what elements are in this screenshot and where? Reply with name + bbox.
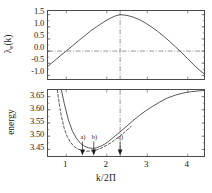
lambda-subscript: e xyxy=(7,46,15,49)
y-tick-label: 3.55 xyxy=(30,117,44,126)
y-tick-label: 0.5 xyxy=(34,31,44,40)
annotation-label-a: a) xyxy=(80,133,85,140)
top-panel-plot-area xyxy=(48,11,204,79)
x-tick-label: 2 xyxy=(96,159,116,169)
annotation-label-b: b) xyxy=(92,133,97,140)
x-axis-label: k/2Π xyxy=(0,173,212,183)
lambda-argument: (k) xyxy=(3,34,13,45)
figure-container: λe(k) 1.5 1.0 0.5 0.0 -0.5 -1.0 energy 3… xyxy=(0,0,212,193)
annotation-label-c: c) xyxy=(118,133,123,140)
y-tick-label: 0.0 xyxy=(34,43,44,52)
y-tick-label: -1.0 xyxy=(31,67,44,76)
y-tick-label: 1.0 xyxy=(34,19,44,28)
y-tick-label: 3.50 xyxy=(30,130,44,139)
bottom-panel-plot-area xyxy=(48,90,204,156)
y-tick-label: -0.5 xyxy=(31,55,44,64)
x-tick-label: 3 xyxy=(136,159,156,169)
y-tick-label: 3.65 xyxy=(30,91,44,100)
top-plot-panel xyxy=(47,10,205,80)
y-tick-label: 1.5 xyxy=(34,7,44,16)
y-tick-label: 3.60 xyxy=(30,104,44,113)
lambda-symbol: λ xyxy=(3,49,13,54)
bottom-panel-y-axis-label: energy xyxy=(6,97,16,147)
x-tick-label: 1 xyxy=(55,159,75,169)
bottom-plot-panel xyxy=(47,89,205,157)
y-tick-label: 3.45 xyxy=(30,143,44,152)
x-tick-label: 4 xyxy=(177,159,197,169)
top-panel-y-axis-label: λe(k) xyxy=(3,19,15,69)
